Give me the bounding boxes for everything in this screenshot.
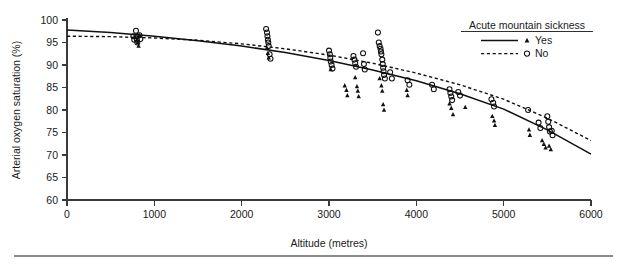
y-tick-label-85: 85 bbox=[46, 81, 58, 93]
data-point-yes bbox=[343, 83, 347, 87]
axes bbox=[67, 18, 591, 200]
data-point-no bbox=[361, 62, 366, 67]
x-tick-label-0: 0 bbox=[64, 208, 70, 220]
data-point-no bbox=[361, 51, 366, 56]
y-tick-label-65: 65 bbox=[46, 171, 58, 183]
data-point-yes bbox=[380, 89, 384, 93]
legend-title: Acute mountain sickness bbox=[469, 19, 585, 31]
legend-marker-no bbox=[524, 51, 529, 56]
x-tick-label-3000: 3000 bbox=[317, 208, 341, 220]
legend-marker-yes bbox=[525, 38, 530, 43]
x-tick-label-5000: 5000 bbox=[492, 208, 516, 220]
data-point-no bbox=[431, 87, 436, 92]
y-tick-label-90: 90 bbox=[46, 59, 58, 71]
data-point-yes bbox=[540, 138, 544, 142]
data-point-yes bbox=[356, 94, 360, 98]
x-tick-label-4000: 4000 bbox=[405, 208, 429, 220]
x-tick-label-2000: 2000 bbox=[230, 208, 254, 220]
data-point-yes bbox=[449, 106, 453, 110]
x-tick-label-1000: 1000 bbox=[143, 208, 167, 220]
y-tick-label-100: 100 bbox=[40, 14, 58, 26]
data-point-yes bbox=[353, 75, 357, 79]
data-point-yes bbox=[355, 84, 359, 88]
data-point-yes bbox=[463, 105, 467, 109]
y-axis-ticks: 6065707580859095100 bbox=[40, 14, 67, 206]
data-point-no bbox=[546, 119, 551, 124]
data-point-yes bbox=[405, 88, 409, 92]
x-axis-ticks: 0100020003000400050006000 bbox=[64, 200, 603, 220]
data-point-yes bbox=[379, 83, 383, 87]
data-point-yes bbox=[492, 118, 496, 122]
data-points bbox=[131, 27, 555, 152]
data-point-yes bbox=[345, 93, 349, 97]
data-point-yes bbox=[451, 112, 455, 116]
figure-container: 6065707580859095100 01000200030004000500… bbox=[0, 0, 627, 264]
data-point-no bbox=[375, 30, 380, 35]
data-point-no bbox=[133, 28, 138, 33]
legend-label-no: No bbox=[535, 47, 549, 59]
legend: Acute mountain sicknessYesNo bbox=[461, 19, 593, 59]
data-point-yes bbox=[547, 143, 551, 147]
data-point-yes bbox=[356, 89, 360, 93]
y-tick-label-75: 75 bbox=[46, 126, 58, 138]
data-point-yes bbox=[344, 88, 348, 92]
data-point-yes bbox=[527, 127, 531, 131]
data-point-no bbox=[407, 82, 412, 87]
x-axis-title: Altitude (metres) bbox=[290, 237, 367, 249]
data-point-no bbox=[545, 114, 550, 119]
y-axis-title: Arterial oxygen saturation (%) bbox=[10, 41, 22, 179]
y-tick-label-95: 95 bbox=[46, 36, 58, 48]
data-point-yes bbox=[528, 133, 532, 137]
data-point-yes bbox=[377, 76, 381, 80]
y-tick-label-80: 80 bbox=[46, 104, 58, 116]
legend-label-yes: Yes bbox=[535, 34, 552, 46]
data-point-yes bbox=[405, 93, 409, 97]
data-point-yes bbox=[381, 102, 385, 106]
data-point-no bbox=[536, 120, 541, 125]
data-point-yes bbox=[493, 123, 497, 127]
data-point-yes bbox=[382, 107, 386, 111]
chart-canvas: 6065707580859095100 01000200030004000500… bbox=[0, 0, 627, 264]
y-tick-label-60: 60 bbox=[46, 194, 58, 206]
data-point-yes bbox=[490, 114, 494, 118]
y-tick-label-70: 70 bbox=[46, 149, 58, 161]
x-tick-label-6000: 6000 bbox=[579, 208, 603, 220]
data-point-no bbox=[389, 76, 394, 81]
